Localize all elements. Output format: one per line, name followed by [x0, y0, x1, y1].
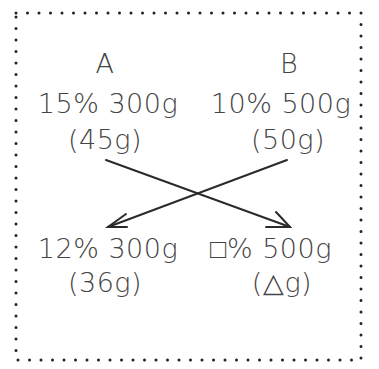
- bottom-left-solute: (36g): [55, 268, 155, 298]
- diagram-canvas: [0, 0, 379, 369]
- a-concentration: 15%: [38, 88, 100, 119]
- b-concentration: 10%: [211, 88, 273, 119]
- bottom-right-concentration: □%: [210, 233, 253, 264]
- a-mass: 300g: [108, 88, 178, 119]
- a-solute: (45g): [55, 125, 155, 155]
- bottom-right-concentration-mass: □% 500g: [196, 234, 346, 264]
- label-b: B: [264, 49, 314, 79]
- b-mass: 500g: [281, 88, 351, 119]
- bottom-left-mass: 300g: [108, 233, 178, 264]
- b-solute: (50g): [238, 125, 338, 155]
- bottom-left-concentration-mass: 12% 300g: [28, 234, 188, 264]
- bottom-right-mass: 500g: [262, 233, 332, 264]
- label-a: A: [80, 49, 130, 79]
- b-concentration-mass: 10% 500g: [196, 89, 366, 119]
- bottom-left-concentration: 12%: [38, 233, 100, 264]
- a-concentration-mass: 15% 300g: [28, 89, 188, 119]
- bottom-right-solute: (△g): [232, 268, 332, 298]
